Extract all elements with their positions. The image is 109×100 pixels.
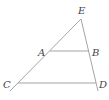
- line-CE: [10, 19, 81, 91]
- geometry-diagram: E A B C D: [0, 0, 109, 100]
- label-C: C: [3, 79, 11, 90]
- label-D: D: [98, 79, 107, 90]
- label-A: A: [37, 47, 45, 58]
- label-E: E: [77, 5, 86, 16]
- label-B: B: [91, 47, 99, 58]
